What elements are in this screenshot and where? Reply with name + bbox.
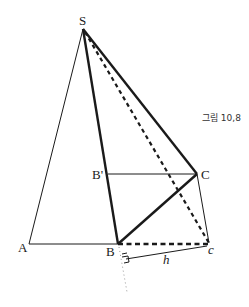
label-B-prime: B' [92,167,103,182]
label-B: B [106,244,115,259]
label-h: h [163,252,170,267]
right-angle-mark-icon [122,253,129,263]
label-C: C [201,167,210,182]
geometry-diagram: S A B B' C c h 그림 10,8 [0,0,249,307]
edge-B-C [118,174,197,244]
edge-S-C [83,29,197,174]
label-c: c [208,242,214,257]
label-A: A [18,240,28,255]
edge-S-A [29,29,83,244]
edge-S-c-dashed [85,32,209,243]
label-S: S [79,13,86,28]
edge-S-B [83,29,118,244]
figure-caption: 그림 10,8 [202,112,241,123]
